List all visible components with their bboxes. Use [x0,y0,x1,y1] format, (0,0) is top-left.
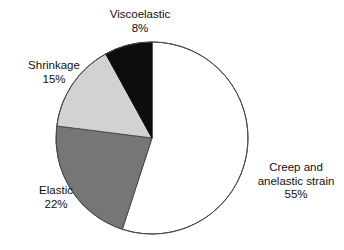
slice-label-shrinkage-name: Shrinkage [2,59,106,73]
slice-label-viscoelastic: Viscoelastic 8% [78,8,202,35]
slice-label-shrinkage-value: 15% [2,73,106,87]
slice-label-elastic-value: 22% [6,198,106,212]
slice-label-viscoelastic-value: 8% [78,22,202,36]
slice-label-viscoelastic-name: Viscoelastic [78,8,202,22]
slice-label-creep: Creep and anelastic strain 55% [248,161,344,202]
slice-label-creep-value: 55% [248,188,344,202]
slice-label-shrinkage: Shrinkage 15% [2,59,106,86]
slice-label-elastic: Elastic 22% [6,184,106,211]
pie-chart-canvas [0,0,344,250]
slice-label-creep-name-line2: anelastic strain [248,175,344,189]
slice-label-elastic-name: Elastic [6,184,106,198]
slice-label-creep-name-line1: Creep and [248,161,344,175]
pie-chart-figure: Viscoelastic 8% Shrinkage 15% Elastic 22… [0,0,344,250]
